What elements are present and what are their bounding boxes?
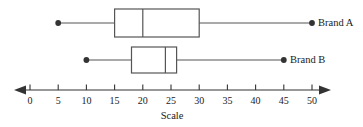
brand-b-max-marker bbox=[281, 57, 287, 63]
x-tick-label-20: 20 bbox=[138, 96, 148, 106]
x-tick-label-45: 45 bbox=[279, 96, 289, 106]
box-plot-chart: 0 5 10 15 20 25 30 35 40 45 50 Brand A B… bbox=[0, 0, 363, 127]
x-axis-title: Scale bbox=[161, 111, 184, 122]
x-tick-label-0: 0 bbox=[28, 96, 33, 106]
series-label-brand-a: Brand A bbox=[318, 18, 353, 29]
x-axis-ticks bbox=[30, 85, 312, 91]
brand-a-max-marker bbox=[309, 20, 315, 26]
x-tick-label-30: 30 bbox=[194, 96, 204, 106]
x-tick-label-5: 5 bbox=[56, 96, 61, 106]
x-tick-label-40: 40 bbox=[251, 96, 261, 106]
x-axis-right-arrow-icon bbox=[319, 86, 331, 95]
series-label-brand-b: Brand B bbox=[290, 55, 325, 66]
x-tick-label-50: 50 bbox=[307, 96, 317, 106]
brand-a-min-marker bbox=[55, 20, 61, 26]
x-tick-label-35: 35 bbox=[222, 96, 232, 106]
brand-a-box bbox=[115, 9, 200, 37]
boxplot-series-brand-b bbox=[84, 47, 287, 73]
brand-b-min-marker bbox=[84, 57, 90, 63]
x-tick-label-15: 15 bbox=[110, 96, 120, 106]
x-axis bbox=[14, 85, 331, 95]
brand-b-box bbox=[132, 47, 177, 73]
x-tick-label-25: 25 bbox=[166, 96, 176, 106]
x-tick-label-10: 10 bbox=[81, 96, 91, 106]
boxplot-series-brand-a bbox=[55, 9, 315, 37]
x-axis-left-arrow-icon bbox=[14, 86, 26, 95]
